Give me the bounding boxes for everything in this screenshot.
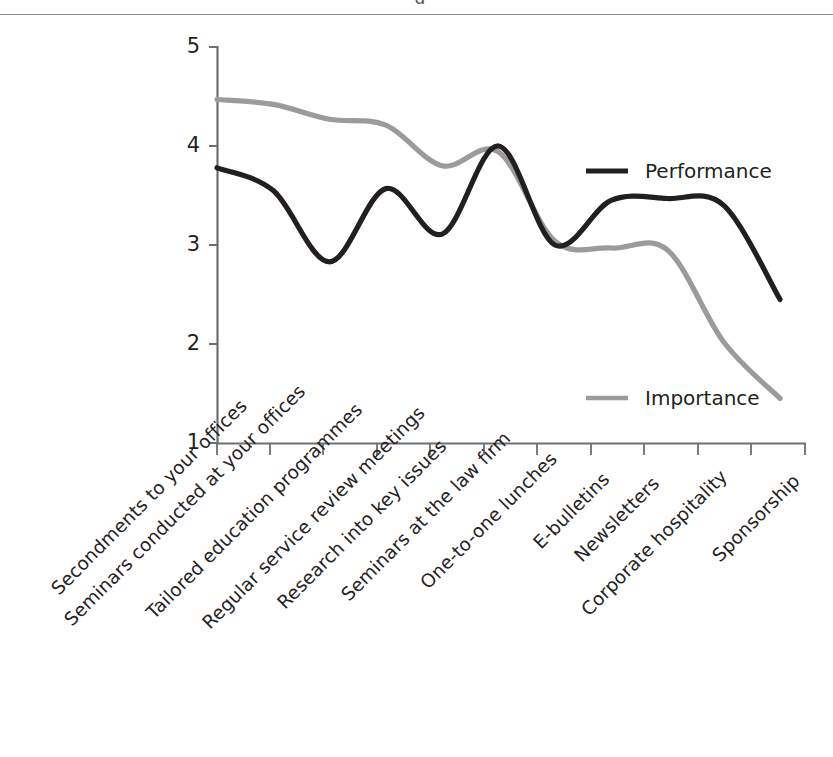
y-tick-label-2: 2	[160, 331, 200, 355]
y-tick-label-4: 4	[160, 133, 200, 157]
legend-label-importance: Importance	[645, 386, 760, 410]
y-axis-ticks	[209, 47, 217, 443]
legend-label-performance: Performance	[645, 159, 772, 183]
y-tick-label-5: 5	[160, 34, 200, 58]
chart-page: g	[0, 0, 833, 757]
y-tick-label-3: 3	[160, 232, 200, 256]
line-chart-plot	[0, 0, 833, 757]
